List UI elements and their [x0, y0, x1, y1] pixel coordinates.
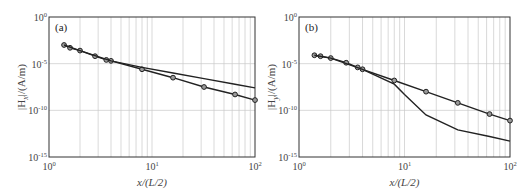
data-point-marker: [202, 85, 207, 90]
x-tick-base: 10: [292, 161, 302, 172]
y-tick-exponent: 0: [294, 11, 297, 18]
chart-figure: (a)10010-510-1010-15100101102x/(L/2)|Hx|…: [0, 0, 524, 195]
data-point-marker: [392, 78, 397, 83]
y-label-h: |H: [265, 100, 277, 110]
series-line: [64, 45, 255, 88]
y-tick-base: 10: [32, 59, 42, 70]
x-tick-label: 100: [292, 160, 305, 172]
y-label-unit: |/(A/m): [15, 64, 28, 96]
x-tick-exponent: 0: [302, 160, 305, 167]
y-tick-label: 10-10: [278, 104, 297, 116]
y-tick-base: 10: [278, 105, 288, 116]
data-point-marker: [508, 118, 513, 123]
x-tick-base: 10: [42, 161, 52, 172]
y-label-h: |H: [15, 100, 27, 110]
y-tick-base: 10: [34, 12, 44, 23]
y-tick-exponent: -5: [292, 58, 297, 65]
x-tick-exponent: 1: [155, 160, 158, 167]
panel-label: (a): [55, 21, 68, 34]
x-tick-label: 101: [145, 160, 158, 172]
y-tick-exponent: 0: [44, 11, 47, 18]
x-tick-label: 102: [503, 160, 516, 172]
plot-panel-a: (a)10010-510-1010-15100101102x/(L/2)|Hx|…: [15, 11, 262, 189]
x-tick-base: 10: [503, 161, 513, 172]
panel-label: (b): [305, 21, 318, 34]
x-tick-exponent: 2: [513, 160, 516, 167]
data-point-marker: [233, 92, 238, 97]
x-tick-exponent: 1: [408, 160, 411, 167]
data-point-marker: [487, 112, 492, 117]
x-tick-exponent: 0: [52, 160, 55, 167]
y-axis-label: |Hy|/(A/m): [265, 64, 280, 110]
x-tick-label: 100: [42, 160, 55, 172]
x-tick-base: 10: [398, 161, 408, 172]
y-tick-label: 100: [34, 11, 47, 23]
y-tick-label: 10-5: [282, 58, 297, 70]
y-tick-exponent: -5: [42, 58, 47, 65]
y-tick-label: 10-10: [28, 104, 47, 116]
data-point-marker: [171, 75, 176, 80]
y-axis-label: |Hx|/(A/m): [15, 64, 30, 110]
plot-panel-b: (b)10010-510-1010-15100101102x/(L/2)|Hy|…: [265, 11, 517, 189]
data-point-marker: [253, 98, 258, 103]
y-tick-base: 10: [282, 59, 292, 70]
data-point-marker: [424, 89, 429, 94]
series-line: [64, 45, 255, 100]
x-tick-base: 10: [248, 161, 258, 172]
y-tick-exponent: -15: [288, 151, 297, 158]
x-tick-base: 10: [145, 161, 155, 172]
x-axis-label: x/(L/2): [389, 176, 420, 189]
y-tick-base: 10: [28, 152, 38, 163]
x-axis-label: x/(L/2): [136, 176, 167, 189]
y-label-unit: |/(A/m): [265, 64, 278, 96]
y-tick-exponent: -15: [38, 151, 47, 158]
series-line: [314, 55, 510, 141]
x-tick-label: 101: [398, 160, 411, 172]
y-tick-label: 100: [284, 11, 297, 23]
y-tick-exponent: -10: [288, 104, 297, 111]
y-tick-base: 10: [28, 105, 38, 116]
x-tick-label: 102: [248, 160, 261, 172]
y-tick-exponent: -10: [38, 104, 47, 111]
x-tick-exponent: 2: [258, 160, 261, 167]
y-tick-label: 10-5: [32, 58, 47, 70]
y-tick-base: 10: [278, 152, 288, 163]
y-tick-base: 10: [284, 12, 294, 23]
data-point-marker: [455, 100, 460, 105]
series-line: [314, 55, 510, 120]
